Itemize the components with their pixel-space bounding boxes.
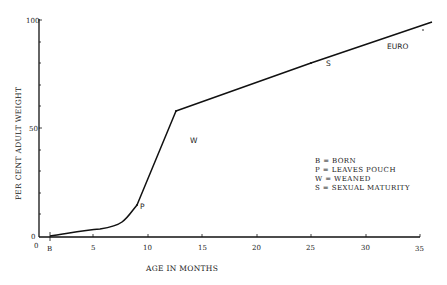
annotation-euro: EURO [387,42,408,51]
point-s [310,62,312,64]
x-tick-born: B [47,245,52,253]
y-tick-0: 0 [31,233,35,241]
legend-sexual-maturity: S = SEXUAL MATURITY [315,184,410,192]
x-tick-30: 30 [361,244,370,252]
point-p [136,204,138,206]
x-tick-10: 10 [143,244,152,252]
annotation-s: S [326,59,331,68]
x-tick-0: 0 [34,242,38,250]
legend: B = BORN P = LEAVES POUCH W = WEANED S =… [315,157,410,192]
x-tick-15: 15 [198,244,207,252]
growth-chart: 100 50 0 0 B 5 10 15 20 25 30 35 AGE IN … [0,0,447,285]
y-axis-title: PER CENT ADULT WEIGHT [14,87,23,200]
annotation-w: W [190,136,198,145]
legend-weaned: W = WEANED [315,175,371,183]
legend-leaves-pouch: P = LEAVES POUCH [315,166,396,174]
x-tick-5: 5 [91,244,95,252]
y-tick-100: 100 [26,17,39,25]
legend-born: B = BORN [315,157,356,165]
x-tick-25: 25 [306,244,315,252]
point-euro [422,29,424,31]
y-tick-50: 50 [29,125,38,133]
x-axis-title: AGE IN MONTHS [145,264,218,273]
x-tick-20: 20 [252,244,261,252]
point-w [175,110,177,112]
x-tick-35: 35 [415,245,424,253]
annotation-p: P [140,202,145,211]
growth-curve [50,22,432,236]
